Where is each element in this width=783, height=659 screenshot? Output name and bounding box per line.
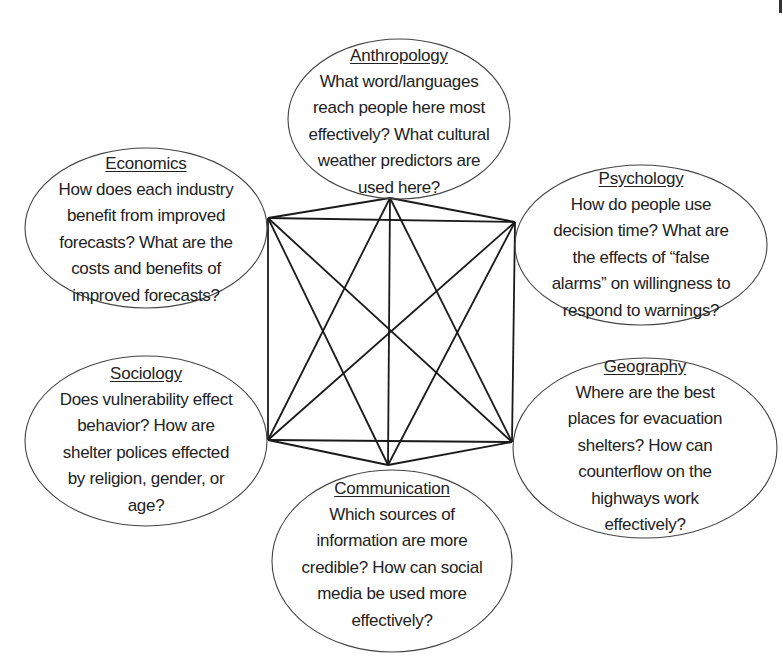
edge-psychology-communication (388, 222, 515, 465)
node-title: Psychology (599, 166, 684, 192)
corner-mark (779, 0, 782, 13)
edge-psychology-geography (512, 222, 515, 442)
node-geography: Geography Where are the best places for … (525, 363, 765, 529)
node-question-text: Where are the best places for evacuation… (568, 380, 722, 539)
node-sociology: Sociology Does vulnerability effect beha… (30, 370, 262, 510)
edge-geography-communication (388, 442, 512, 465)
node-question-text: What word/languages reach people here mo… (309, 69, 490, 202)
node-question-text: Which sources of information are more cr… (302, 502, 483, 635)
node-title: Economics (105, 151, 186, 177)
node-question-text: How does each industry benefit from impr… (59, 177, 234, 310)
edge-anthropology-psychology (390, 198, 515, 222)
node-anthropology: Anthropology What word/languages reach p… (288, 52, 510, 192)
node-title: Communication (334, 476, 450, 502)
edge-psychology-sociology (268, 222, 515, 440)
node-economics: Economics How does each industry benefit… (30, 160, 262, 300)
node-communication: Communication Which sources of informati… (276, 485, 508, 625)
connection-lines (268, 198, 515, 465)
node-question-text: How do people use decision time? What ar… (552, 192, 731, 325)
edge-sociology-communication (268, 440, 388, 465)
node-psychology: Psychology How do people use decision ti… (520, 175, 762, 315)
edge-economics-communication (268, 218, 388, 465)
node-question-text: Does vulnerability effect behavior? How … (60, 387, 233, 520)
edge-economics-psychology (268, 218, 515, 222)
edge-sociology-geography (268, 440, 512, 442)
node-title: Geography (604, 354, 686, 380)
node-title: Anthropology (350, 43, 448, 69)
node-title: Sociology (110, 361, 182, 387)
edge-anthropology-geography (390, 198, 512, 442)
